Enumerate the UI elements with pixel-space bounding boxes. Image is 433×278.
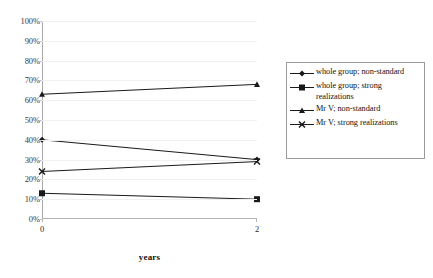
y-tick-label: 40% — [2, 135, 40, 144]
y-tick-label: 90% — [2, 36, 40, 45]
y-tick-mark — [39, 41, 42, 42]
plot-area — [42, 21, 257, 219]
legend-items: whole group; non-standardwhole group; st… — [287, 63, 424, 158]
square-marker-icon — [290, 82, 314, 93]
y-tick-mark — [39, 80, 42, 81]
legend-label: whole group; strong realizations — [314, 81, 421, 102]
plot-region: 0%10%20%30%40%50%60%70%80%90%100% years … — [0, 0, 280, 278]
y-tick-label: 30% — [2, 155, 40, 164]
legend-item[interactable]: whole group; strong realizations — [290, 81, 421, 102]
y-tick-mark — [39, 160, 42, 161]
legend-label: Mr V; strong realizations — [314, 118, 398, 129]
y-tick-label: 20% — [2, 175, 40, 184]
y-tick-label: 60% — [2, 96, 40, 105]
y-tick-mark — [39, 100, 42, 101]
line-chart: 0%10%20%30%40%50%60%70%80%90%100% years … — [0, 0, 433, 278]
x-marker-icon — [290, 119, 314, 130]
gridline — [42, 41, 257, 42]
legend-label: Mr V; non-standard — [314, 104, 380, 115]
legend-item[interactable]: whole group; non-standard — [290, 67, 421, 79]
gridline — [42, 179, 257, 180]
gridline — [42, 100, 257, 101]
triangle-marker-icon — [290, 105, 314, 116]
x-tick-end — [256, 219, 257, 222]
y-tick-mark — [39, 120, 42, 121]
gridline — [42, 199, 257, 200]
gridline — [42, 140, 257, 141]
diamond-marker-icon — [290, 68, 314, 79]
gridline — [42, 61, 257, 62]
x-tick-label: 2 — [255, 224, 259, 234]
y-tick-label: 10% — [2, 195, 40, 204]
y-tick-mark — [39, 179, 42, 180]
y-tick-label: 0% — [2, 215, 40, 224]
series-2 — [39, 81, 260, 96]
series-3 — [39, 159, 260, 175]
series-1 — [39, 190, 260, 202]
y-tick-label: 70% — [2, 76, 40, 85]
x-tick-label: 0 — [40, 224, 44, 234]
y-tick-mark — [39, 219, 42, 220]
y-tick-label: 100% — [2, 17, 40, 26]
y-tick-mark — [39, 21, 42, 22]
gridline — [42, 80, 257, 81]
y-tick-label: 50% — [2, 116, 40, 125]
legend-label: whole group; non-standard — [314, 67, 404, 78]
y-tick-mark — [39, 140, 42, 141]
gridline — [42, 160, 257, 161]
y-tick-label: 80% — [2, 56, 40, 65]
y-tick-mark — [39, 61, 42, 62]
x-axis-title: years — [42, 252, 257, 262]
gridline — [42, 120, 257, 121]
x-tick-start — [42, 219, 43, 222]
chart-legend: whole group; non-standardwhole group; st… — [286, 62, 425, 159]
legend-item[interactable]: Mr V; non-standard — [290, 104, 421, 116]
legend-item[interactable]: Mr V; strong realizations — [290, 118, 421, 130]
y-axis-tick-labels: 0%10%20%30%40%50%60%70%80%90%100% — [0, 0, 40, 278]
y-tick-mark — [39, 199, 42, 200]
gridline — [42, 21, 257, 22]
